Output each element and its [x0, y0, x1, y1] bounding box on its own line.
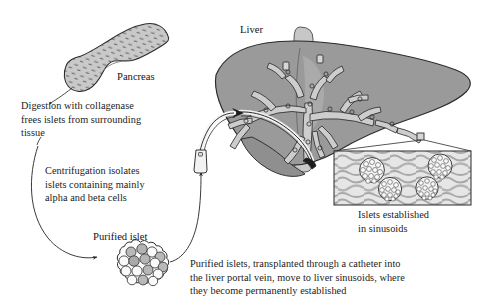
islet-cluster-icon [360, 158, 385, 184]
curved-arrow-icon-to-catheter [170, 172, 201, 262]
step-transplant-text: Purified islets, transplanted through a … [190, 257, 405, 298]
step-centrifugation-text: Centrifugation isolates islets containin… [45, 164, 145, 205]
inset-frame [334, 151, 471, 205]
islet-cluster-icon [416, 177, 438, 200]
islet-cluster-icon [378, 177, 401, 201]
inset-caption: Islets established in sinusoids [358, 208, 429, 235]
step-digestion-text: Digestion with collagenase frees islets … [21, 99, 141, 140]
sinusoid-inset [334, 140, 471, 205]
inset-callout-line-right [424, 140, 471, 151]
liver-label: Liver [240, 24, 263, 35]
islet-cluster-icon-purified [117, 240, 168, 286]
inset-callout-origin [417, 133, 424, 140]
purified-islet-label: Purified islet [93, 231, 147, 242]
pancreas-label: Pancreas [117, 71, 155, 82]
